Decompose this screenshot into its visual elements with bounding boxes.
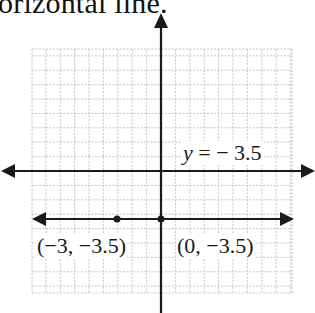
x-axis-left-arrow-icon	[1, 164, 15, 178]
point-label-neg3: (−3, −3.5)	[36, 234, 127, 258]
point-neg3	[114, 216, 121, 223]
equation-label: y = − 3.5	[181, 141, 264, 165]
x-axis-right-arrow-icon	[301, 164, 315, 178]
y-axis-up-arrow-icon	[154, 13, 168, 28]
coordinate-plane	[0, 0, 315, 313]
point-0	[158, 216, 165, 223]
equation-value: = − 3.5	[193, 140, 262, 165]
equation-variable: y	[183, 140, 193, 165]
point-label-0: (0, −3.5)	[176, 234, 255, 258]
